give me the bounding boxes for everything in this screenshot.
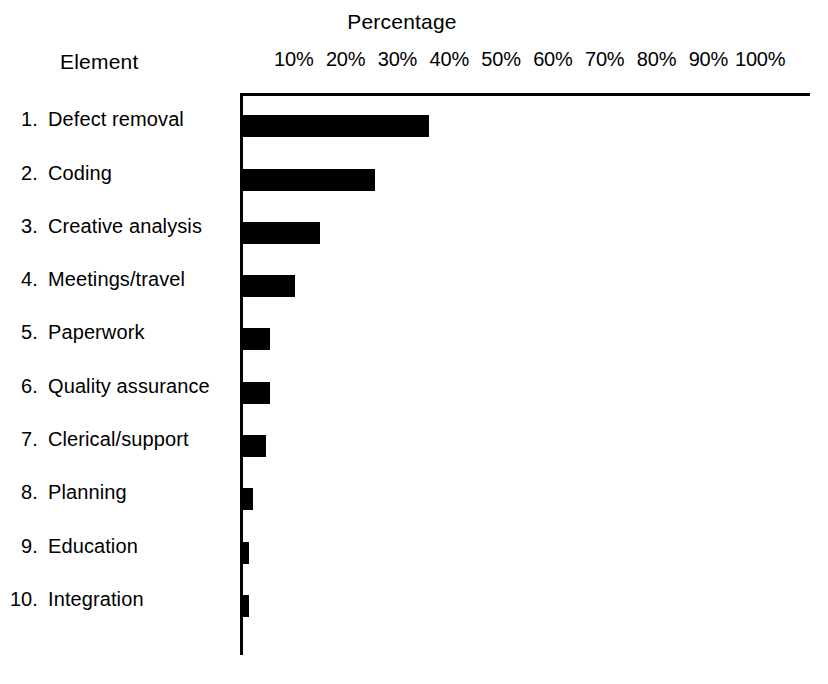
- chart-title-text: Percentage: [347, 10, 456, 34]
- category-name: Creative analysis: [48, 215, 210, 238]
- bar: [240, 275, 295, 297]
- category-name: Paperwork: [48, 321, 210, 344]
- bar: [240, 169, 375, 191]
- category-index: 1.: [4, 108, 38, 131]
- category-index: 2.: [4, 162, 38, 185]
- category-label-row: 10.Integration: [4, 588, 210, 611]
- bar: [240, 328, 270, 350]
- category-name: Education: [48, 535, 210, 558]
- category-label-row: 5.Paperwork: [4, 321, 210, 344]
- y-axis-title: Element: [60, 50, 138, 74]
- category-name: Clerical/support: [48, 428, 210, 451]
- category-label-row: 9.Education: [4, 535, 210, 558]
- category-label-row: 6.Quality assurance: [4, 375, 210, 398]
- category-index: 3.: [4, 215, 38, 238]
- category-label-row: 7.Clerical/support: [4, 428, 210, 451]
- bar: [240, 435, 266, 457]
- bars-layer: [240, 93, 810, 655]
- category-name: Quality assurance: [48, 375, 210, 398]
- x-tick-label-40: 40%: [430, 48, 469, 71]
- category-index: 9.: [4, 535, 38, 558]
- bar: [240, 115, 429, 137]
- category-index: 5.: [4, 321, 38, 344]
- category-name: Integration: [48, 588, 210, 611]
- bar-chart-figure: Percentage Element 10%20%30%40%50%60%70%…: [0, 0, 828, 684]
- x-axis-tick-labels: 10%20%30%40%50%60%70%80%90%100%: [240, 48, 818, 72]
- x-tick-label-30: 30%: [378, 48, 417, 71]
- x-tick-label-20: 20%: [326, 48, 365, 71]
- bar: [240, 595, 249, 617]
- chart-title: Percentage: [0, 10, 828, 34]
- bar: [240, 382, 270, 404]
- category-index: 8.: [4, 481, 38, 504]
- bar: [240, 222, 320, 244]
- category-name: Planning: [48, 481, 210, 504]
- category-index: 7.: [4, 428, 38, 451]
- x-tick-label-90: 90%: [689, 48, 728, 71]
- category-index: 6.: [4, 375, 38, 398]
- x-tick-label-10: 10%: [274, 48, 313, 71]
- x-tick-label-60: 60%: [533, 48, 572, 71]
- category-label-row: 3.Creative analysis: [4, 215, 210, 238]
- category-label-row: 2.Coding: [4, 162, 210, 185]
- x-tick-label-70: 70%: [585, 48, 624, 71]
- category-label-row: 1.Defect removal: [4, 108, 210, 131]
- category-label-row: 4.Meetings/travel: [4, 268, 210, 291]
- category-name: Defect removal: [48, 108, 210, 131]
- category-index: 4.: [4, 268, 38, 291]
- category-name: Coding: [48, 162, 210, 185]
- bar: [240, 488, 253, 510]
- category-label-row: 8.Planning: [4, 481, 210, 504]
- category-name: Meetings/travel: [48, 268, 210, 291]
- x-tick-label-50: 50%: [481, 48, 520, 71]
- category-index: 10.: [4, 588, 38, 611]
- category-label-list: 1.Defect removal2.Coding3.Creative analy…: [0, 93, 232, 655]
- x-tick-label-80: 80%: [637, 48, 676, 71]
- bar: [240, 542, 249, 564]
- x-tick-label-100: 100%: [735, 48, 785, 71]
- plot-area: [240, 93, 810, 655]
